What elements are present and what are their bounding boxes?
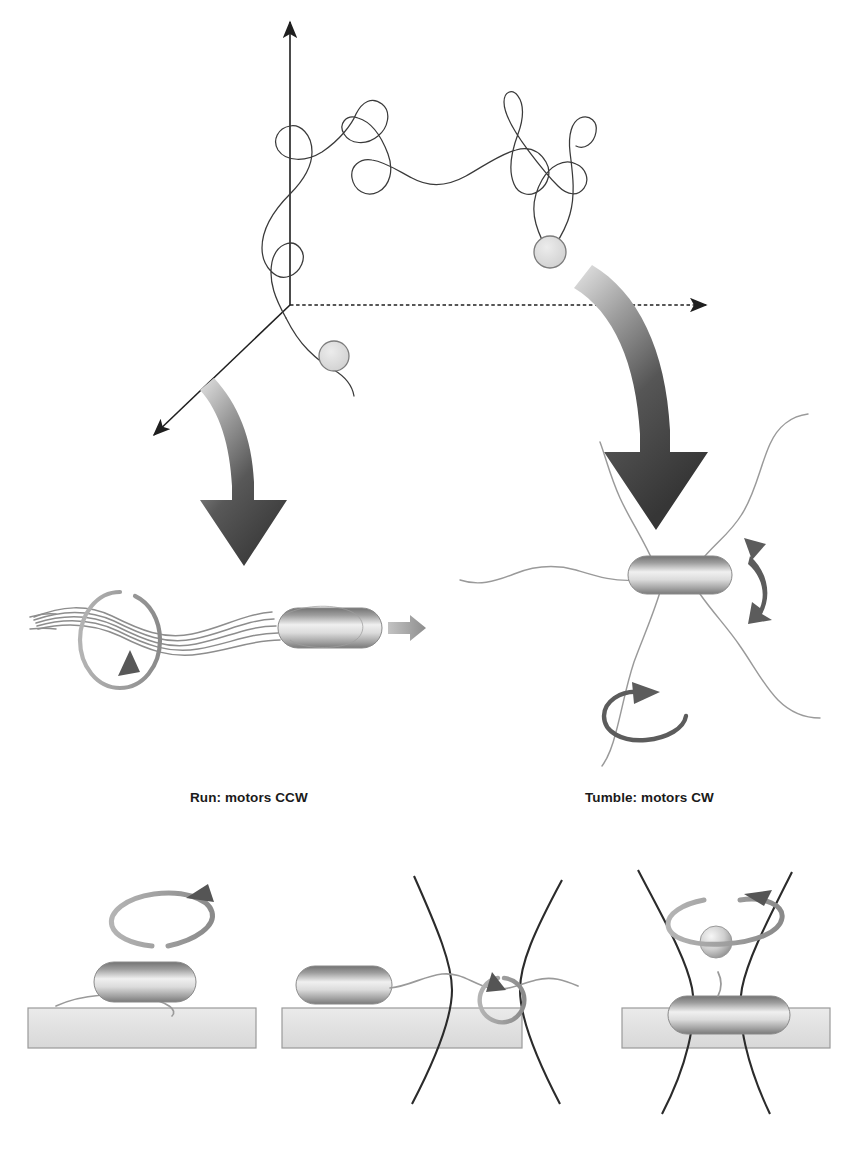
bacterium-body-rod-adhered [296, 966, 392, 1004]
bacterium-position-marker-lower [319, 341, 349, 371]
bacterium-body-rod [278, 606, 382, 648]
bacterium-body-rod-tethered [94, 962, 196, 1002]
figure-root: Run: motors CCW Tumble: mo [0, 0, 868, 1157]
bacterium-body-rod-tumble [628, 556, 732, 594]
bacterial-motility-figure: Run: motors CCW Tumble: mo [0, 0, 868, 1157]
tumble-panel-label: Tumble: motors CW [585, 790, 714, 805]
bacterium-position-marker-upper [534, 236, 566, 268]
bacterium-body-rod-adhered [668, 996, 790, 1034]
glass-slide-slab [28, 1008, 256, 1048]
run-panel-label: Run: motors CCW [190, 790, 308, 805]
